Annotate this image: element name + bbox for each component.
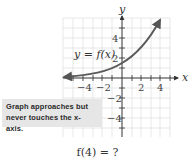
y-axis-label: y [118,3,126,16]
x-tick-label: 2 [138,82,144,93]
y-tick-label: −2 [107,93,122,104]
question-caption: f(4) = ? [0,146,195,159]
note-line-1: Graph approaches but [6,101,98,112]
x-tick-label: 4 [157,82,163,93]
asymptote-note: Graph approaches but never touches the x… [2,99,102,127]
x-axis-label: x [182,71,189,84]
x-tick-label: −4 [77,82,92,93]
function-label: y = f(x) [73,48,115,61]
x-tick-label: −2 [96,82,111,93]
y-tick-label: −4 [107,113,122,124]
function-graph: x y −4 −2 2 4 4 2 −2 −4 y = f(x) [0,0,195,165]
note-line-2: never touches the x-axis. [6,112,98,134]
y-tick-label: 4 [112,33,118,44]
